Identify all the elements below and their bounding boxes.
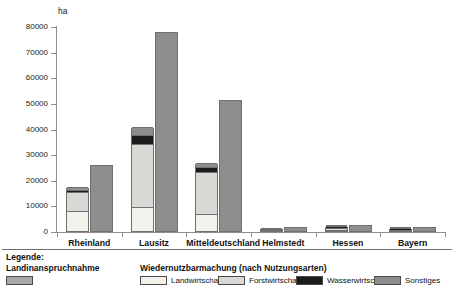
bar-wiedernutzbarmachung [349,225,372,232]
legend-heading-wiedernutzbarmachung: Wiedernutzbarmachung (nach Nutzungsarten… [140,263,326,273]
y-tick-label: 60000 [0,74,48,82]
y-tick-label: 80000 [0,23,48,31]
y-tick-label: 30000 [0,151,48,159]
x-axis-label-lausitz: Lausitz [122,238,187,248]
legend-swatch-landwirtschaft [140,276,167,285]
y-tick-mark [51,181,57,182]
bar-segment-sonstiges [67,187,88,189]
legend-label-forstwirtschaft: Forstwirtschaft [249,276,301,285]
bar-wiedernutzbarmachung [284,227,307,232]
x-tick-mark [186,232,187,237]
bar-segment-sonstiges [261,228,282,229]
x-axis-label-rheinland: Rheinland [57,238,122,248]
x-axis-label-bayern: Bayern [380,238,445,248]
y-tick-mark [51,78,57,79]
y-tick-mark [51,104,57,105]
y-tick-label: 0 [0,228,48,236]
bar-landinanspruchnahme [195,164,218,232]
bar-wiedernutzbarmachung [155,32,178,232]
y-tick-mark [51,130,57,131]
x-tick-mark [251,232,252,237]
x-axis-label-helmstedt: Helmstedt [251,238,316,248]
y-tick-label: 50000 [0,100,48,108]
legend-label-landwirtschaft: Landwirtschaft [171,276,223,285]
y-tick-label: 10000 [0,202,48,210]
bar-chart: ha 0100002000030000400005000060000700008… [0,0,454,294]
x-tick-mark [122,232,123,237]
bar-landinanspruchnahme [131,128,154,232]
bar-segment-wasserwirtschaft [132,135,153,144]
bar-segment-landwirtschaft [67,211,88,232]
bar-landinanspruchnahme [325,227,348,232]
legend: Legende: Landinanspruchnahme Wiedernutzb… [0,250,454,294]
bar-wiedernutzbarmachung [90,165,113,232]
legend-swatch-sonstiges [374,276,401,285]
legend-swatch-forstwirtschaft [218,276,245,285]
legend-swatch-landinanspruchnahme [6,276,33,285]
x-tick-mark [57,232,58,237]
bar-segment-sonstiges [390,227,411,228]
bar-segment-wasserwirtschaft [196,167,217,172]
bar-segment-sonstiges [326,225,347,226]
y-tick-mark [51,155,57,156]
bar-segment-wasserwirtschaft [67,190,88,192]
bar-segment-wasserwirtschaft [326,226,347,227]
bar-landinanspruchnahme [260,229,283,232]
bar-segment-forstwirtschaft [67,192,88,211]
x-tick-mark [380,232,381,237]
x-tick-mark [445,232,446,237]
bar-landinanspruchnahme [389,229,412,232]
y-tick-label: 40000 [0,126,48,134]
bar-segment-forstwirtschaft [326,228,347,230]
bar-segment-landwirtschaft [196,214,217,231]
bar-segment-landwirtschaft [326,230,347,231]
legend-swatch-wasserwirtschaft [296,276,323,285]
y-tick-label: 20000 [0,177,48,185]
bar-segment-forstwirtschaft [132,144,153,207]
legend-heading-landinanspruchnahme: Landinanspruchnahme [6,263,100,273]
y-tick-mark [51,206,57,207]
y-tick-label: 70000 [0,49,48,57]
legend-title: Legende: [6,252,44,262]
x-tick-mark [316,232,317,237]
bar-segment-forstwirtschaft [196,172,217,214]
bar-wiedernutzbarmachung [413,227,436,232]
bar-segment-wasserwirtschaft [390,228,411,230]
bar-wiedernutzbarmachung [219,100,242,232]
bar-segment-forstwirtschaft [261,229,282,230]
x-axis-label-hessen: Hessen [316,238,381,248]
bar-segment-landwirtschaft [132,207,153,231]
y-axis-unit-label: ha [58,6,67,16]
y-tick-mark [51,27,57,28]
x-axis-label-mitteldeutschland: Mitteldeutschland [186,238,251,248]
bar-segment-sonstiges [132,127,153,135]
bar-landinanspruchnahme [66,188,89,232]
y-tick-mark [51,53,57,54]
bar-segment-sonstiges [196,163,217,167]
legend-label-sonstiges: Sonstiges [405,276,440,285]
